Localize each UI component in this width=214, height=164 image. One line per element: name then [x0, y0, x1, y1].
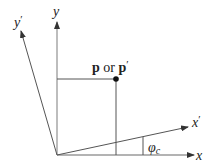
y-prime-label: y′ [12, 13, 23, 30]
x-prime-axis [57, 127, 188, 155]
rotation-diagram: y y′ x x′ p or p′ φc [0, 0, 214, 164]
x-prime-label: x′ [191, 113, 201, 130]
y-prime-axis [21, 31, 57, 155]
point-p [113, 76, 119, 82]
point-label: p or p′ [92, 58, 129, 75]
y-axis-label: y [51, 4, 60, 19]
x-axis-label: x [195, 148, 203, 163]
angle-label: φc [148, 140, 161, 156]
